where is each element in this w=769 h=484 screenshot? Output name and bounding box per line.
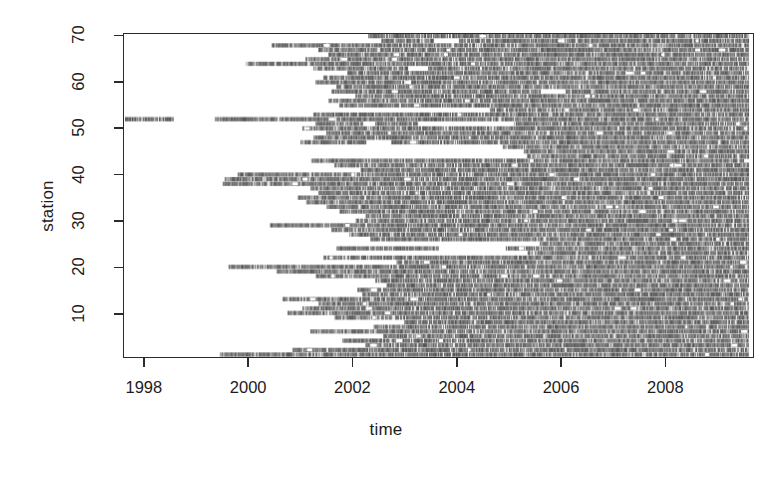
y-tick-mark — [114, 313, 123, 315]
x-tick-label: 2006 — [531, 378, 591, 397]
y-tick-label: 10 — [69, 291, 88, 335]
y-tick-label: 60 — [69, 59, 88, 103]
x-tick-mark — [560, 358, 562, 367]
x-tick-label: 2000 — [218, 378, 278, 397]
y-tick-label: 20 — [69, 245, 88, 289]
y-axis-title: station — [38, 146, 58, 266]
y-tick-mark — [114, 35, 123, 37]
x-tick-mark — [665, 358, 667, 367]
y-tick-label: 40 — [69, 152, 88, 196]
missing-data-raster-plot: station time 10203040506070 199820002002… — [0, 0, 769, 484]
x-tick-label: 2004 — [427, 378, 487, 397]
y-tick-mark — [114, 81, 123, 83]
y-tick-mark — [114, 267, 123, 269]
plot-area — [123, 33, 754, 358]
x-tick-mark — [143, 358, 145, 367]
data-availability-raster — [124, 34, 753, 357]
y-tick-mark — [114, 127, 123, 129]
x-tick-label: 2008 — [635, 378, 695, 397]
x-tick-label: 1998 — [114, 378, 174, 397]
x-tick-mark — [456, 358, 458, 367]
x-tick-mark — [352, 358, 354, 367]
y-tick-mark — [114, 220, 123, 222]
x-tick-mark — [247, 358, 249, 367]
y-tick-mark — [114, 174, 123, 176]
y-tick-label: 30 — [69, 199, 88, 243]
x-axis-title: time — [306, 420, 466, 440]
x-tick-label: 2002 — [322, 378, 382, 397]
y-tick-label: 70 — [69, 13, 88, 57]
y-tick-label: 50 — [69, 106, 88, 150]
